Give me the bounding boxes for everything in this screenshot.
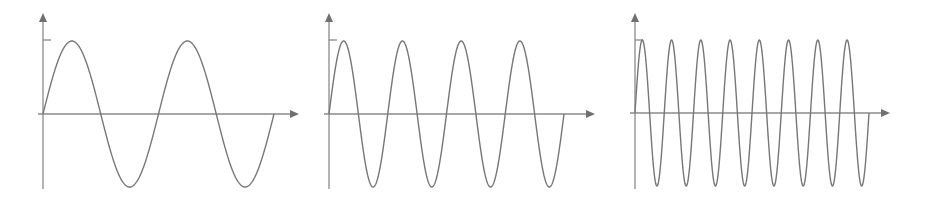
y-axis-arrow-icon [325, 13, 333, 22]
x-axis-arrow-icon [586, 110, 595, 118]
sine-wave-charts [0, 0, 926, 201]
x-axis-arrow-icon [881, 109, 890, 117]
y-axis-arrow-icon [631, 13, 639, 22]
y-axis-arrow-icon [39, 13, 47, 22]
x-axis-arrow-icon [290, 110, 299, 118]
chart-2 [324, 13, 595, 189]
chart-3 [630, 13, 890, 189]
chart-1 [38, 13, 299, 189]
